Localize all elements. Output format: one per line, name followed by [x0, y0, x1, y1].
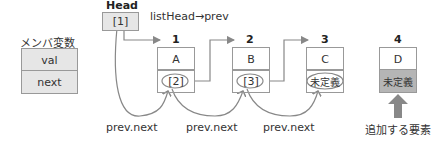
prev-next-curve-3 — [247, 89, 318, 116]
node-index-2: 2 — [246, 33, 254, 46]
add-element-arrow — [388, 94, 408, 118]
head-cell: [1] — [102, 12, 139, 31]
node-2-val: B — [232, 47, 270, 71]
node-index-3: 3 — [321, 33, 329, 46]
node-2-next: [3] — [232, 69, 270, 93]
node-3-next: 未定義 — [306, 69, 344, 93]
member-field-val: val — [21, 48, 78, 72]
node-4-next: 未定義 — [379, 69, 417, 93]
node-4-val: D — [379, 47, 417, 71]
head-label: Head — [106, 0, 138, 12]
node-1-next: [2] — [157, 69, 195, 93]
node-index-1: 1 — [172, 33, 180, 46]
new-element-label: 追加する要素 — [365, 121, 431, 137]
node-1-val: A — [157, 47, 195, 71]
node-index-4: 4 — [394, 33, 402, 46]
head-annotation: listHead→prev — [150, 10, 229, 23]
member-field-next: next — [21, 70, 78, 94]
prev-next-label-2: prev.next — [186, 121, 238, 134]
prev-next-label-3: prev.next — [263, 121, 315, 134]
node-3-val: C — [306, 47, 344, 71]
node1-pointer-arrow — [194, 40, 234, 81]
prev-next-label-1: prev.next — [106, 121, 158, 134]
node2-pointer-arrow — [269, 40, 308, 81]
prev-next-curve-2 — [172, 89, 243, 116]
